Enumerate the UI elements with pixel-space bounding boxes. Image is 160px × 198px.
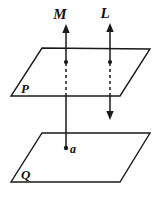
- figure-canvas: M L P Q a: [0, 0, 160, 198]
- label-plane-p: P: [21, 81, 30, 96]
- line-l-group: [106, 23, 113, 120]
- plane-p-outline: [11, 48, 150, 96]
- plane-q-outline: [11, 133, 150, 182]
- label-line-m: M: [52, 6, 67, 22]
- label-plane-q: Q: [21, 167, 31, 182]
- geometry-figure: M L P Q a: [0, 0, 160, 198]
- point-a-dot: [64, 146, 68, 150]
- line-l-arrowhead-down: [106, 111, 113, 120]
- label-point-a: a: [70, 142, 76, 156]
- line-m-group: [62, 24, 69, 150]
- label-line-l: L: [99, 5, 109, 21]
